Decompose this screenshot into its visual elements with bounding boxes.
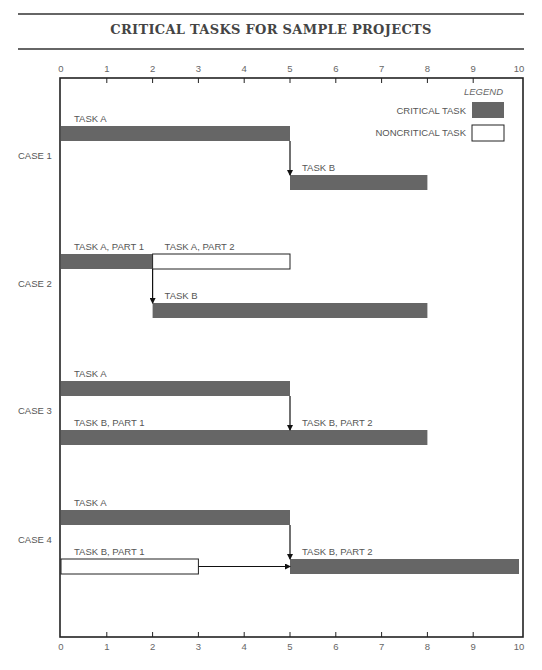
legend-title: LEGEND (464, 86, 503, 97)
x-tick-label-top: 1 (104, 63, 109, 74)
critical-task-bar (61, 510, 290, 525)
task-label: TASK A, PART 1 (74, 241, 144, 252)
case-label: CASE 3 (18, 405, 52, 416)
x-tick-label-top: 3 (196, 63, 201, 74)
task-label: TASK B, PART 1 (74, 546, 145, 557)
case-2: CASE 2TASK A, PART 1TASK A, PART 2TASK B (18, 241, 427, 318)
x-tick-label-bottom: 7 (379, 641, 384, 652)
critical-task-bar (290, 175, 427, 190)
case-label: CASE 1 (18, 150, 52, 161)
noncritical-task-bar (153, 254, 290, 269)
legend-swatch-critical (472, 102, 504, 118)
top-axis: 012345678910 (58, 63, 524, 83)
x-tick-label-bottom: 4 (242, 641, 247, 652)
task-label: TASK A (74, 368, 107, 379)
legend: LEGEND CRITICAL TASK NONCRITICAL TASK (375, 86, 504, 141)
x-tick-label-bottom: 8 (425, 641, 430, 652)
task-label: TASK B (165, 290, 198, 301)
x-tick-label-bottom: 0 (58, 641, 63, 652)
case-1: CASE 1TASK ATASK B (18, 113, 427, 190)
x-tick-label-top: 5 (287, 63, 292, 74)
case-label: CASE 4 (18, 534, 52, 545)
x-tick-label-bottom: 5 (287, 641, 292, 652)
legend-label-noncritical: NONCRITICAL TASK (375, 127, 466, 138)
x-tick-label-bottom: 10 (514, 641, 525, 652)
x-tick-label-top: 4 (242, 63, 247, 74)
task-label: TASK B, PART 1 (74, 417, 145, 428)
cases: CASE 1TASK ATASK BCASE 2TASK A, PART 1TA… (18, 113, 519, 574)
x-tick-label-bottom: 6 (333, 641, 338, 652)
case-3: CASE 3TASK ATASK B, PART 1TASK B, PART 2 (18, 368, 427, 445)
chart-title: CRITICAL TASKS FOR SAMPLE PROJECTS (110, 22, 431, 37)
x-tick-label-top: 9 (471, 63, 476, 74)
x-tick-label-top: 6 (333, 63, 338, 74)
noncritical-task-bar (61, 559, 198, 574)
critical-task-bar (61, 381, 290, 396)
critical-task-bar (290, 559, 519, 574)
task-label: TASK B, PART 2 (302, 417, 373, 428)
x-tick-label-top: 8 (425, 63, 430, 74)
x-tick-label-bottom: 9 (471, 641, 476, 652)
legend-swatch-noncritical (472, 125, 504, 141)
task-label: TASK B (302, 162, 335, 173)
x-tick-label-top: 0 (58, 63, 63, 74)
x-tick-label-top: 10 (514, 63, 525, 74)
x-tick-label-bottom: 1 (104, 641, 109, 652)
x-tick-label-top: 7 (379, 63, 384, 74)
x-tick-label-top: 2 (150, 63, 155, 74)
critical-task-bar (290, 430, 427, 445)
critical-task-bar (61, 254, 153, 269)
case-4: CASE 4TASK ATASK B, PART 1TASK B, PART 2 (18, 497, 519, 574)
critical-task-bar (61, 126, 290, 141)
x-tick-label-bottom: 2 (150, 641, 155, 652)
legend-label-critical: CRITICAL TASK (396, 105, 466, 116)
task-label: TASK A, PART 2 (165, 241, 235, 252)
gantt-chart: CRITICAL TASKS FOR SAMPLE PROJECTS 01234… (0, 0, 542, 670)
critical-task-bar (61, 430, 290, 445)
task-label: TASK B, PART 2 (302, 546, 373, 557)
x-tick-label-bottom: 3 (196, 641, 201, 652)
task-label: TASK A (74, 497, 107, 508)
bottom-axis: 012345678910 (58, 632, 524, 652)
task-label: TASK A (74, 113, 107, 124)
critical-task-bar (153, 303, 428, 318)
case-label: CASE 2 (18, 278, 52, 289)
